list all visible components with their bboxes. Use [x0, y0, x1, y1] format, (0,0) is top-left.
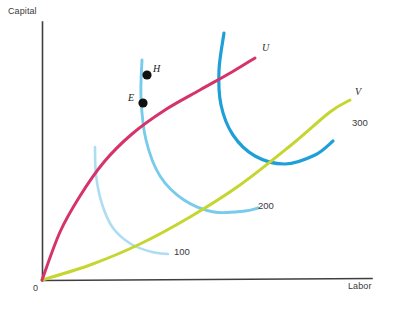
y-axis-title: Capital — [8, 6, 37, 16]
isoquant-label-100: 100 — [174, 246, 190, 257]
isoquant-curve-100 — [95, 147, 168, 254]
expansion-path-v — [42, 100, 350, 280]
point-label-e: E — [128, 92, 134, 103]
isoquant-chart-figure: Capital Labor 0 U V 100 200 300 E H — [0, 0, 396, 314]
isoquant-label-300: 300 — [352, 117, 368, 128]
isoquant-curve-200 — [141, 60, 258, 213]
isoquant-curve-300 — [219, 33, 333, 164]
data-point-h — [142, 70, 151, 79]
curve-label-v: V — [355, 86, 361, 97]
isoquant-label-200: 200 — [258, 200, 274, 211]
point-label-h: H — [153, 63, 160, 74]
x-axis-line — [42, 279, 372, 281]
expansion-path-u — [42, 58, 255, 280]
curve-label-u: U — [262, 42, 269, 53]
chart-canvas — [0, 0, 396, 314]
x-axis-title: Labor — [348, 281, 372, 291]
data-point-e — [138, 98, 147, 107]
origin-label: 0 — [33, 283, 38, 293]
